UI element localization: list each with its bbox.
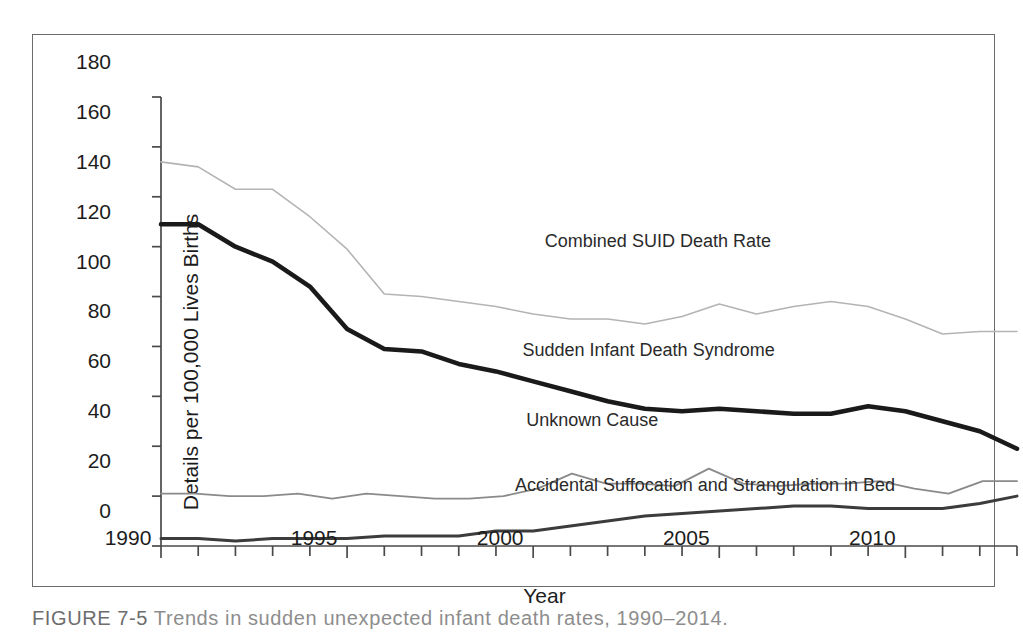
y-axis-tick-label: 180 — [51, 51, 111, 72]
series-label: Combined SUID Death Rate — [545, 232, 771, 250]
y-axis-tick-label: 100 — [51, 251, 111, 272]
y-axis-tick-label: 80 — [51, 300, 111, 321]
x-axis-tick-label: 2005 — [646, 527, 726, 548]
x-axis-tick-label: 1995 — [274, 527, 354, 548]
y-axis-tick-label: 40 — [51, 400, 111, 421]
y-axis-tick-label: 120 — [51, 201, 111, 222]
series-label: Accidental Suffocation and Strangulation… — [515, 476, 895, 494]
series-label: Sudden Infant Death Syndrome — [523, 341, 775, 359]
x-axis-tick-label: 2010 — [832, 527, 912, 548]
y-axis-ticks — [152, 97, 161, 546]
y-axis-tick-label: 60 — [51, 350, 111, 371]
y-axis-tick-label: 0 — [51, 500, 111, 521]
y-axis-tick-label: 20 — [51, 450, 111, 471]
figure-caption: FIGURE 7-5 Trends in sudden unexpected i… — [32, 607, 992, 630]
y-axis-tick-label: 140 — [51, 151, 111, 172]
figure-caption-label: FIGURE 7-5 — [32, 607, 148, 629]
figure-caption-text: Trends in sudden unexpected infant death… — [154, 607, 728, 629]
series-label: Unknown Cause — [526, 411, 658, 429]
figure-frame: Details per 100,000 Lives Births Year 02… — [32, 34, 995, 587]
x-axis-tick-label: 1990 — [88, 527, 168, 548]
y-axis-tick-label: 160 — [51, 101, 111, 122]
x-axis-tick-label: 2000 — [460, 527, 540, 548]
